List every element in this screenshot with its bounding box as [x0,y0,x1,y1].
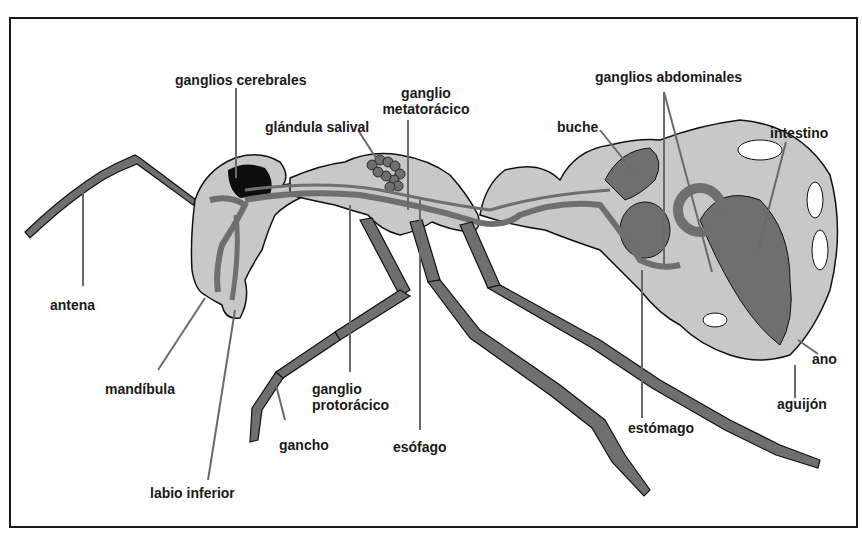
label-ganglio-protoracico: ganglio protorácico [312,381,389,413]
abdomen [480,120,838,360]
label-ganglios-cerebrales: ganglios cerebrales [175,72,307,88]
head [191,155,305,318]
label-antena: antena [50,297,95,313]
label-glandula-salival: glándula salival [265,119,369,135]
label-labio-inferior: labio inferior [150,485,235,501]
label-ano: ano [812,351,837,367]
label-ganglio-metatoracico-line1: ganglio [370,85,482,101]
label-estomago: estómago [628,420,694,436]
label-ganglio-protoracico-line1: ganglio [312,381,389,397]
label-gancho: gancho [279,437,329,453]
label-intestino: intestino [770,125,828,141]
label-aguijon: aguijón [777,396,827,412]
antenna [25,155,196,238]
label-buche: buche [557,119,598,135]
label-ganglio-protoracico-line2: protorácico [312,397,389,413]
label-esofago: esófago [393,439,447,455]
label-ganglio-metatoracico: ganglio metatorácico [370,85,482,117]
label-ganglios-abdominales: ganglios abdominales [595,69,742,85]
label-ganglio-metatoracico-line2: metatorácico [370,101,482,117]
label-mandibula: mandíbula [105,381,175,397]
